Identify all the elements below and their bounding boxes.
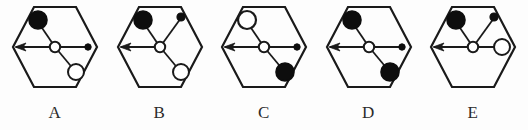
node-hub-small-open-circle [259, 42, 269, 52]
figure-label-d: D [320, 103, 418, 123]
node-upper-right-small-black-dot [177, 13, 185, 21]
node-hub-small-open-circle [363, 42, 373, 52]
node-lower-right-large-open-circle [173, 64, 189, 80]
figure-label-b: B [111, 103, 209, 123]
node-hub-small-open-circle [50, 42, 60, 52]
puzzle-figure-stage: A B C D E [0, 0, 528, 130]
figure-panel-b[interactable] [111, 0, 209, 100]
label-row: A B C D E [0, 96, 528, 130]
node-hub-small-open-circle [154, 42, 164, 52]
node-upper-right-small-black-dot [490, 13, 498, 21]
node-upper-left-large-black-circle [29, 11, 47, 29]
node-upper-left-large-open-circle [238, 11, 256, 29]
figure-panel-e[interactable] [424, 0, 522, 100]
figure-label-e: E [424, 103, 522, 123]
figure-d-svg [320, 0, 418, 100]
node-lower-right-large-black-circle [276, 63, 294, 81]
figure-a-svg [6, 0, 104, 100]
figure-b-svg [111, 0, 209, 100]
node-lower-right-large-black-circle [381, 63, 399, 81]
node-right-end-small-black-dot [398, 44, 404, 50]
node-right-end-small-black-dot [85, 44, 91, 50]
figure-e-svg [424, 0, 522, 100]
figure-panel-d[interactable] [320, 0, 418, 100]
node-hub-small-open-circle [468, 42, 478, 52]
node-upper-left-large-black-circle [343, 11, 361, 29]
node-upper-left-large-black-circle [447, 11, 465, 29]
figure-c-svg [215, 0, 313, 100]
figure-panel-a[interactable] [6, 0, 104, 100]
node-upper-left-large-black-circle [134, 11, 152, 29]
figure-panel-c[interactable] [215, 0, 313, 100]
figure-label-a: A [6, 103, 104, 123]
node-right-end-small-black-dot [294, 44, 300, 50]
figure-label-c: C [215, 103, 313, 123]
node-right-large-open-circle [494, 39, 510, 55]
node-lower-right-large-open-circle [68, 64, 84, 80]
figure-row [0, 0, 528, 100]
